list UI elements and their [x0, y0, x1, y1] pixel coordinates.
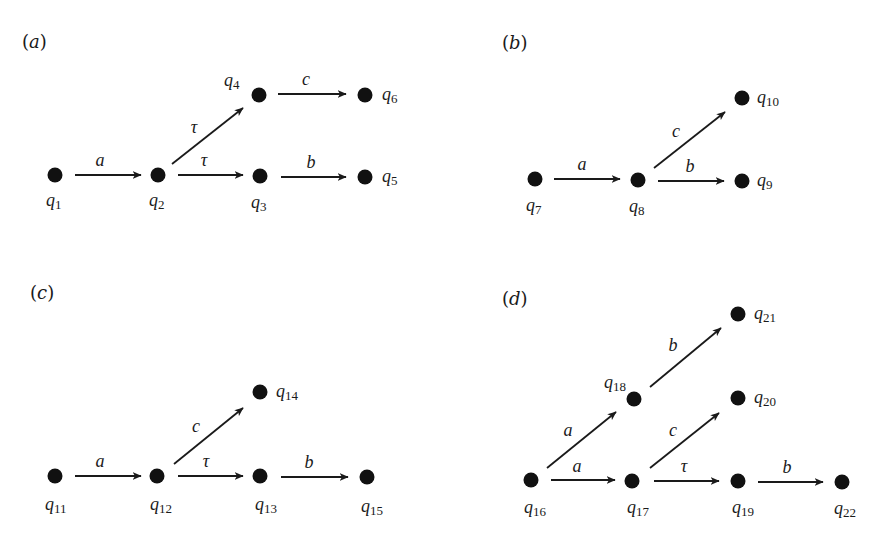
arrow-icon: [172, 108, 243, 164]
state-q14: q14: [253, 381, 299, 403]
state-q8: q8: [629, 173, 646, 219]
state-label: q8: [629, 196, 645, 218]
state-label: q3: [251, 192, 267, 214]
transition-label: c: [672, 121, 680, 141]
transition-systems-figure: (a)aττcbq1q2q3q4q5q6(b)acbq7q8q9q10(c)ac…: [0, 0, 889, 540]
panel-label: (c): [30, 282, 54, 303]
state-q21: q21: [731, 303, 777, 325]
state-dot-icon: [731, 474, 746, 489]
arrow-icon: [650, 328, 721, 387]
state-label: q13: [255, 494, 277, 516]
transition-q18-q21: b: [650, 328, 721, 387]
state-dot-icon: [360, 470, 375, 485]
state-q7: q7: [526, 172, 543, 218]
transition-q1-q2: a: [75, 150, 141, 175]
transition-q16-q18: a: [547, 412, 616, 468]
transition-q2-q4: τ: [172, 108, 243, 164]
state-dot-icon: [625, 474, 640, 489]
state-dot-icon: [835, 475, 850, 490]
state-dot-icon: [253, 169, 268, 184]
state-dot-icon: [253, 385, 268, 400]
state-label: q22: [834, 498, 856, 520]
state-label: q15: [361, 496, 383, 518]
transition-label: c: [302, 69, 310, 89]
transition-label: τ: [191, 117, 198, 137]
state-q11: q11: [45, 469, 67, 517]
state-dot-icon: [735, 174, 750, 189]
state-dot-icon: [528, 172, 543, 187]
transition-q7-q8: a: [554, 154, 620, 179]
arrow-icon: [547, 412, 616, 468]
state-q15: q15: [360, 470, 384, 519]
state-q9: q9: [735, 170, 773, 192]
transition-label: τ: [203, 451, 210, 471]
state-dot-icon: [627, 392, 642, 407]
state-label: q18: [604, 372, 626, 394]
state-label: q7: [526, 195, 542, 217]
state-q16: q16: [524, 473, 547, 520]
transition-label: a: [96, 451, 105, 471]
state-dot-icon: [358, 88, 373, 103]
state-dot-icon: [48, 168, 63, 183]
panel-label: (a): [22, 31, 47, 52]
transition-label: b: [669, 335, 678, 355]
state-dot-icon: [253, 469, 268, 484]
state-dot-icon: [731, 307, 746, 322]
state-q10: q10: [735, 87, 780, 109]
transition-q13-q15: b: [281, 452, 348, 477]
transition-label: b: [783, 457, 792, 477]
state-q4: q4: [224, 70, 267, 103]
state-q1: q1: [46, 168, 63, 213]
transition-label: a: [96, 150, 105, 170]
state-q20: q20: [731, 387, 777, 409]
state-dot-icon: [150, 469, 165, 484]
state-dot-icon: [631, 173, 646, 188]
state-dot-icon: [524, 473, 539, 488]
transition-q19-q22: b: [758, 457, 823, 482]
state-q22: q22: [834, 475, 856, 521]
transition-q3-q5: b: [281, 152, 346, 177]
state-label: q9: [757, 170, 773, 192]
state-label: q16: [524, 497, 547, 519]
state-q12: q12: [150, 469, 173, 517]
state-label: q5: [382, 166, 398, 188]
panel-label: (d): [502, 288, 528, 309]
state-label: q2: [149, 190, 165, 212]
state-q6: q6: [358, 84, 399, 106]
state-dot-icon: [48, 469, 63, 484]
state-label: q12: [150, 494, 172, 516]
state-q3: q3: [251, 169, 268, 215]
panel-a: (a)aττcbq1q2q3q4q5q6: [22, 31, 398, 214]
panel-c: (c)acτbq11q12q13q14q15: [30, 282, 383, 518]
transition-label: b: [686, 156, 695, 176]
state-dot-icon: [731, 391, 746, 406]
transition-q8-q9: b: [658, 156, 724, 181]
state-q18: q18: [604, 372, 642, 407]
state-label: q4: [224, 70, 240, 92]
state-q5: q5: [358, 166, 398, 188]
transition-label: τ: [201, 150, 208, 170]
state-label: q19: [732, 497, 754, 519]
transition-label: c: [192, 416, 200, 436]
transition-label: a: [578, 154, 587, 174]
panel-b: (b)acbq7q8q9q10: [502, 32, 779, 218]
state-label: q11: [45, 494, 67, 516]
transition-label: τ: [681, 456, 688, 476]
state-dot-icon: [735, 91, 750, 106]
transition-label: b: [305, 452, 314, 472]
state-label: q6: [382, 84, 398, 106]
state-q19: q19: [731, 474, 755, 520]
state-label: q20: [754, 387, 776, 409]
transition-label: b: [307, 152, 316, 172]
state-q13: q13: [253, 469, 278, 517]
transition-q4-q6: c: [278, 69, 346, 94]
transition-q16-q17: a: [551, 456, 615, 480]
state-q2: q2: [149, 168, 166, 213]
transition-label: a: [564, 420, 573, 440]
state-label: q14: [276, 381, 299, 403]
state-dot-icon: [252, 88, 267, 103]
state-dot-icon: [151, 168, 166, 183]
state-dot-icon: [358, 170, 373, 185]
state-q17: q17: [625, 474, 650, 520]
transition-q12-q13: τ: [178, 451, 243, 476]
